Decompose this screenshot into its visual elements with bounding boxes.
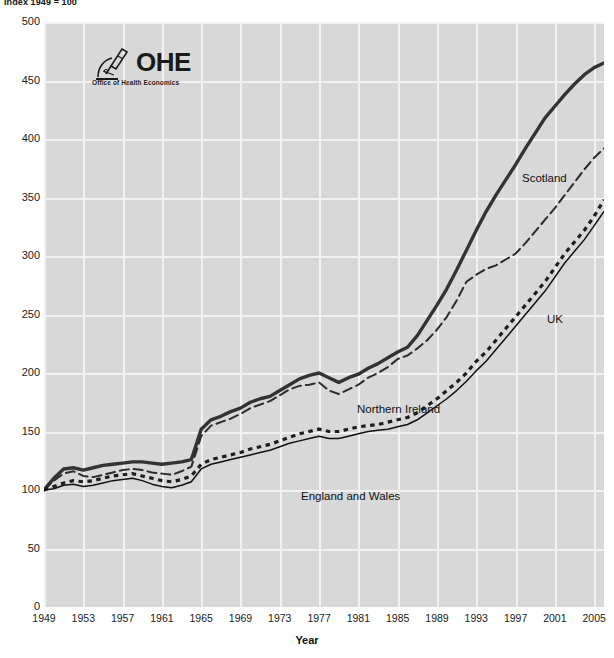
x-tick-label: 1989 bbox=[425, 612, 448, 624]
series-label-england-and-wales: England and Wales bbox=[301, 490, 400, 502]
y-tick-label: 150 bbox=[4, 425, 40, 437]
series-line-england-and-wales bbox=[44, 212, 604, 490]
y-axis: 500450400350300250200150100500 bbox=[0, 22, 40, 607]
x-tick-label: 1985 bbox=[386, 612, 409, 624]
series-line-uk bbox=[44, 200, 604, 490]
x-tick-label: 1961 bbox=[150, 612, 173, 624]
ohe-logo: OHE Office of Health Economics bbox=[92, 47, 196, 93]
x-tick-label: 1997 bbox=[504, 612, 527, 624]
x-tick-label: 1977 bbox=[307, 612, 330, 624]
microscope-icon bbox=[94, 47, 138, 81]
x-tick-label: 1953 bbox=[72, 612, 95, 624]
y-tick-label: 400 bbox=[4, 132, 40, 144]
x-tick-label: 2005 bbox=[582, 612, 605, 624]
series-label-northern-ireland: Northern Ireland bbox=[357, 403, 440, 415]
y-tick-label: 250 bbox=[4, 308, 40, 320]
series-line-scotland bbox=[44, 63, 604, 490]
y-tick-label: 300 bbox=[4, 249, 40, 261]
series-container bbox=[44, 22, 604, 607]
y-tick-label: 50 bbox=[4, 542, 40, 554]
y-tick-label: 350 bbox=[4, 191, 40, 203]
x-axis-title: Year bbox=[0, 634, 614, 646]
y-tick-label: 200 bbox=[4, 366, 40, 378]
logo-acronym: OHE bbox=[136, 49, 191, 75]
y-tick-label: 500 bbox=[4, 15, 40, 27]
index-note: Index 1949 = 100 bbox=[4, 0, 77, 7]
chart-plot-area: OHE Office of Health Economics Scotland … bbox=[44, 22, 604, 607]
logo-subtitle: Office of Health Economics bbox=[92, 79, 179, 86]
x-tick-label: 1981 bbox=[347, 612, 370, 624]
x-tick-label: 1969 bbox=[229, 612, 252, 624]
x-tick-label: 1973 bbox=[268, 612, 291, 624]
x-tick-label: 1993 bbox=[465, 612, 488, 624]
x-tick-label: 1965 bbox=[190, 612, 213, 624]
x-tick-label: 1957 bbox=[111, 612, 134, 624]
x-tick-label: 2001 bbox=[543, 612, 566, 624]
series-label-scotland: Scotland bbox=[522, 172, 567, 184]
y-tick-label: 450 bbox=[4, 74, 40, 86]
y-tick-label: 0 bbox=[4, 600, 40, 612]
x-axis: 1949195319571961196519691973197719811985… bbox=[44, 612, 604, 628]
x-tick-label: 1949 bbox=[32, 612, 55, 624]
y-tick-label: 100 bbox=[4, 483, 40, 495]
series-line-northern-ireland bbox=[44, 148, 604, 490]
series-label-uk: UK bbox=[547, 313, 563, 325]
